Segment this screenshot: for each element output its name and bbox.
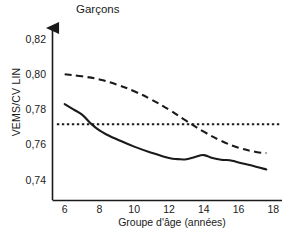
- y-tick-label: 0,78: [16, 103, 46, 115]
- y-tick-label: 0,76: [16, 138, 46, 150]
- y-tick-label: 0,82: [16, 33, 46, 45]
- data-series-group: [57, 74, 280, 169]
- solid-lower-curve: [65, 104, 267, 169]
- x-tick-label: 6: [52, 203, 78, 215]
- x-tick-label: 10: [121, 203, 147, 215]
- x-tick-label: 12: [156, 203, 182, 215]
- x-tick-label: 14: [191, 203, 217, 215]
- x-tick-label: 18: [260, 203, 286, 215]
- y-tick-label: 0,74: [16, 174, 46, 186]
- x-tick-label: 16: [226, 203, 252, 215]
- axes: [53, 28, 283, 201]
- dashed-upper-curve: [65, 74, 267, 153]
- chart-container: Garçons VEMS/CV LIN Groupe d'âge (années…: [0, 0, 290, 235]
- y-tick-label: 0,80: [16, 68, 46, 80]
- x-tick-label: 8: [86, 203, 112, 215]
